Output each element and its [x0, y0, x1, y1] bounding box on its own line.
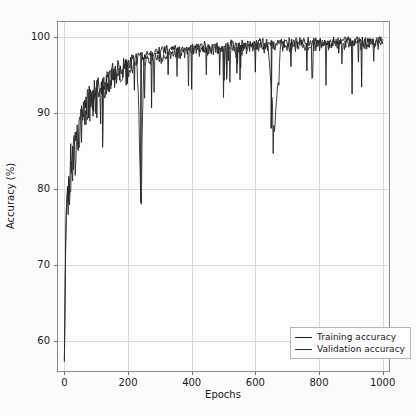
x-tick-label: 600 [246, 378, 265, 388]
accuracy-training-chart: 60708090100 02004006008001000 Accuracy (… [0, 0, 416, 416]
x-tick-mark [128, 372, 129, 375]
legend-line-swatch [295, 349, 312, 350]
x-tick-label: 0 [61, 378, 67, 388]
data-curves [58, 22, 389, 371]
y-tick-label: 70 [24, 260, 50, 270]
series-line [64, 38, 382, 362]
y-axis-title: Accuracy (%) [5, 163, 16, 229]
legend-label: Validation accuracy [317, 344, 405, 354]
x-tick-mark [64, 372, 65, 375]
x-tick-mark [319, 372, 320, 375]
y-tick-label: 90 [24, 108, 50, 118]
x-tick-mark [255, 372, 256, 375]
x-tick-label: 400 [182, 378, 201, 388]
legend-item[interactable]: Training accuracy [295, 331, 405, 343]
legend-label: Training accuracy [317, 332, 396, 342]
x-tick-mark [383, 372, 384, 375]
x-tick-label: 1000 [370, 378, 395, 388]
x-tick-label: 800 [309, 378, 328, 388]
legend-item[interactable]: Validation accuracy [295, 343, 405, 355]
x-tick-mark [192, 372, 193, 375]
x-axis-title: Epochs [205, 389, 241, 400]
y-tick-label: 100 [24, 32, 50, 42]
x-tick-label: 200 [118, 378, 137, 388]
chart-legend[interactable]: Training accuracyValidation accuracy [290, 327, 411, 359]
y-tick-label: 80 [24, 184, 50, 194]
legend-line-swatch [295, 337, 312, 338]
series-lines [58, 22, 389, 371]
y-tick-label: 60 [24, 336, 50, 346]
plot-area [57, 21, 390, 372]
